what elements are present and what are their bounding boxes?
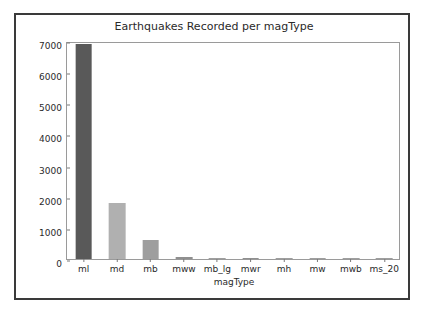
x-tick-label: mw bbox=[309, 264, 325, 274]
y-tick-label: 6000 bbox=[39, 72, 67, 82]
x-tick-label: mwr bbox=[241, 264, 261, 274]
x-tick-mh: mh bbox=[277, 259, 291, 274]
x-axis-label: magType bbox=[67, 277, 401, 287]
y-tick-5000: 5000 bbox=[39, 96, 67, 115]
y-tick-mark bbox=[67, 198, 70, 199]
y-tick-label: 0 bbox=[56, 259, 67, 269]
x-tick-mark bbox=[83, 259, 84, 262]
x-tick-ml: ml bbox=[78, 259, 89, 274]
y-tick-2000: 2000 bbox=[39, 189, 67, 208]
y-tick-label: 1000 bbox=[39, 227, 67, 237]
x-tick-md: md bbox=[110, 259, 124, 274]
x-tick-mb: mb bbox=[143, 259, 157, 274]
y-tick-4000: 4000 bbox=[39, 127, 67, 146]
x-tick-label: mb bbox=[143, 264, 157, 274]
y-tick-0: 0 bbox=[56, 252, 67, 271]
y-tick-7000: 7000 bbox=[39, 34, 67, 53]
x-tick-mark bbox=[250, 259, 251, 262]
x-tick-mark bbox=[150, 259, 151, 262]
bar-mw bbox=[309, 258, 326, 259]
x-tick-label: mwb bbox=[340, 264, 362, 274]
bar-mb bbox=[142, 240, 159, 259]
plot-area: earthquakes magType 01000200030004000500… bbox=[66, 42, 400, 260]
x-tick-mwb: mwb bbox=[340, 259, 362, 274]
x-tick-ms_20: ms_20 bbox=[370, 259, 399, 274]
figure-frame: Earthquakes Recorded per magType earthqu… bbox=[14, 13, 410, 300]
bar-md bbox=[109, 203, 126, 259]
x-tick-label: md bbox=[110, 264, 124, 274]
chart-title: Earthquakes Recorded per magType bbox=[16, 20, 412, 34]
bar-ms_20 bbox=[376, 258, 393, 259]
y-tick-label: 3000 bbox=[39, 165, 67, 175]
bar-mb_lg bbox=[209, 258, 226, 259]
x-tick-label: mww bbox=[172, 264, 196, 274]
y-tick-label: 7000 bbox=[39, 41, 67, 51]
y-tick-label: 2000 bbox=[39, 196, 67, 206]
bar-mh bbox=[276, 258, 293, 259]
y-tick-mark bbox=[67, 229, 70, 230]
x-tick-mark bbox=[384, 259, 385, 262]
x-tick-mww: mww bbox=[172, 259, 196, 274]
y-tick-mark bbox=[67, 74, 70, 75]
y-tick-6000: 6000 bbox=[39, 65, 67, 84]
bar-mwb bbox=[343, 258, 360, 259]
y-tick-mark bbox=[67, 43, 70, 44]
x-tick-label: ml bbox=[78, 264, 89, 274]
x-tick-mb_lg: mb_lg bbox=[204, 259, 231, 274]
x-tick-label: ms_20 bbox=[370, 264, 399, 274]
y-tick-label: 4000 bbox=[39, 134, 67, 144]
bar-mww bbox=[176, 257, 193, 259]
x-tick-mark bbox=[317, 259, 318, 262]
y-tick-3000: 3000 bbox=[39, 158, 67, 177]
x-tick-label: mh bbox=[277, 264, 291, 274]
y-tick-label: 5000 bbox=[39, 103, 67, 113]
y-tick-mark bbox=[67, 105, 70, 106]
x-tick-mark bbox=[350, 259, 351, 262]
x-tick-mw: mw bbox=[309, 259, 325, 274]
y-tick-mark bbox=[67, 261, 70, 262]
bar-ml bbox=[75, 44, 92, 259]
x-tick-mark bbox=[284, 259, 285, 262]
x-tick-label: mb_lg bbox=[204, 264, 231, 274]
bar-mwr bbox=[242, 258, 259, 259]
y-tick-mark bbox=[67, 136, 70, 137]
x-tick-mark bbox=[183, 259, 184, 262]
x-tick-mark bbox=[117, 259, 118, 262]
x-tick-mark bbox=[217, 259, 218, 262]
y-tick-1000: 1000 bbox=[39, 220, 67, 239]
x-tick-mwr: mwr bbox=[241, 259, 261, 274]
y-tick-mark bbox=[67, 167, 70, 168]
